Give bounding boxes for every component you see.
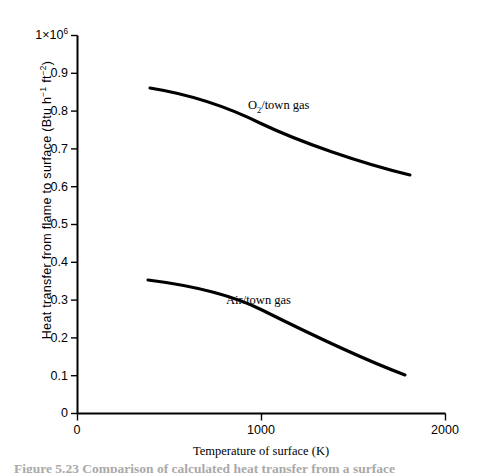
y-axis-title-part1: Heat transfer from flame to surface (Btu… [40,97,54,340]
x-axis-ticks [78,414,446,421]
series-label-o2-suffix: /town gas [261,98,309,112]
y-axis-title: Heat transfer from flame to surface (Btu… [40,0,54,400]
x-tick-label-1000: 1000 [231,424,291,436]
y-tick-label-0: 0 [22,407,68,419]
y-axis-title-part3: ) [40,61,54,65]
y-tick-exponent: 6 [63,27,68,36]
x-tick-label-0: 0 [47,424,107,436]
series-label-air-town-gas: Air/town gas [226,293,291,308]
y-axis-title-part2: ft [40,75,54,86]
chart-figure: 1×106 0.9 0.8 0.7 0.6 0.5 0.4 0.3 0.2 0.… [0,0,481,440]
series-label-o2-town-gas: O2/town gas [248,98,309,113]
x-axis-title: Temperature of surface (K) [77,444,445,459]
plot-canvas [0,0,481,440]
series-label-o2-element: O [248,98,257,112]
x-tick-label-2000: 2000 [415,424,475,436]
figure-caption-partial: Figure 5.23 Comparison of calculated hea… [14,461,469,473]
y-axis-title-sup1: −1 [39,87,48,97]
figure-page: 1×106 0.9 0.8 0.7 0.6 0.5 0.4 0.3 0.2 0.… [0,0,481,473]
y-axis-title-sup2: −2 [39,65,48,75]
